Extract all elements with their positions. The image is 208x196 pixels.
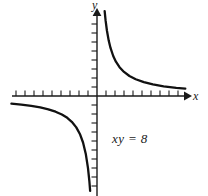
y-axis-label: y [92,0,97,11]
x-axis-ticks-positive [106,91,178,97]
equation-label: xy = 8 [112,131,148,147]
curve-upper-right-branch [105,11,186,88]
hyperbola-figure: y x xy = 8 [0,0,208,196]
y-axis-ticks-positive [92,24,98,87]
curve-lower-left-branch [11,104,90,191]
graph-canvas [0,0,208,196]
x-axis-label: x [193,90,198,102]
x-axis-ticks-negative [16,91,88,97]
y-axis-ticks-negative [92,105,98,186]
x-axis-arrow-icon [184,92,192,101]
